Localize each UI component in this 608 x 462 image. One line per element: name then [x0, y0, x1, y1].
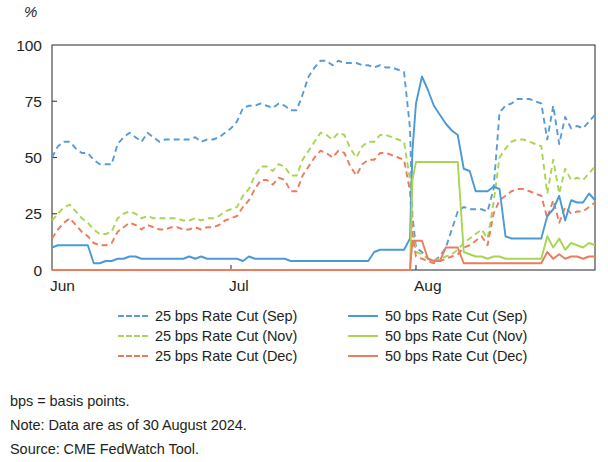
legend-item-label: 25 bps Rate Cut (Sep) [155, 308, 297, 324]
line-chart-svg: 0255075100Jun2024JulAug [0, 0, 608, 300]
legend-item[interactable]: 50 bps Rate Cut (Sep) [348, 306, 564, 326]
y-tick-label: 25 [25, 205, 42, 222]
x-tick-label: Aug [414, 277, 442, 294]
legend-item[interactable]: 50 bps Rate Cut (Nov) [348, 326, 564, 346]
legend-line-swatch-icon [118, 335, 148, 337]
plot-area: 0255075100Jun2024JulAug [0, 0, 608, 300]
note-bps: bps = basis points. [10, 389, 570, 413]
y-tick-label: 50 [25, 149, 43, 166]
legend-item-label: 50 bps Rate Cut (Dec) [385, 348, 527, 364]
legend-item[interactable]: 25 bps Rate Cut (Sep) [118, 306, 334, 326]
legend-line-swatch-icon [118, 355, 148, 357]
plot-frame [52, 45, 595, 270]
note-source: Source: CME FedWatch Tool. [10, 437, 570, 461]
legend-item-label: 25 bps Rate Cut (Nov) [155, 328, 297, 344]
chart-legend: 25 bps Rate Cut (Sep)50 bps Rate Cut (Se… [118, 306, 578, 366]
legend-item[interactable]: 25 bps Rate Cut (Nov) [118, 326, 334, 346]
legend-item[interactable]: 25 bps Rate Cut (Dec) [118, 346, 334, 366]
legend-line-swatch-icon [118, 315, 148, 317]
y-tick-label: 100 [16, 37, 42, 54]
legend-line-swatch-icon [348, 355, 378, 357]
figure-notes: bps = basis points. Note: Data are as of… [10, 389, 570, 461]
legend-item-label: 50 bps Rate Cut (Sep) [385, 308, 527, 324]
x-tick-label: Jul [229, 277, 249, 294]
legend-item-label: 50 bps Rate Cut (Nov) [385, 328, 527, 344]
y-tick-label: 0 [33, 262, 42, 279]
note-data-date: Note: Data are as of 30 August 2024. [10, 413, 570, 437]
series-line [52, 61, 595, 261]
legend-item[interactable]: 50 bps Rate Cut (Dec) [348, 346, 564, 366]
x-tick-sublabel: 2024 [50, 296, 85, 300]
series-line [52, 241, 595, 270]
y-tick-label: 75 [25, 93, 42, 110]
series-line [52, 162, 595, 270]
series-line [52, 151, 595, 264]
figure-rate-cut-probabilities: % 0255075100Jun2024JulAug 25 bps Rate Cu… [0, 0, 608, 462]
series-line [52, 77, 595, 264]
x-tick-label: Jun [50, 277, 75, 294]
legend-item-label: 25 bps Rate Cut (Dec) [155, 348, 297, 364]
legend-line-swatch-icon [348, 315, 378, 317]
series-line [52, 133, 595, 261]
legend-line-swatch-icon [348, 335, 378, 337]
